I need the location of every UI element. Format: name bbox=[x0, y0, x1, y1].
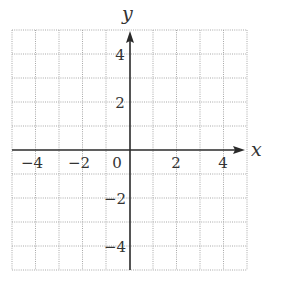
y-tick-label-neg4: −4 bbox=[104, 238, 126, 256]
x-tick-label-neg2: −2 bbox=[68, 154, 90, 172]
y-tick-label-neg2: −2 bbox=[104, 190, 126, 208]
x-axis-label: x bbox=[251, 138, 262, 160]
y-tick-label-2: 2 bbox=[115, 94, 125, 112]
x-tick-label-2: 2 bbox=[171, 154, 181, 172]
x-tick-label-neg4: −4 bbox=[21, 154, 43, 172]
x-tick-label-4: 4 bbox=[218, 154, 228, 172]
coordinate-plane: x y −4 −2 0 2 4 4 2 −2 −4 bbox=[0, 0, 283, 284]
y-tick-label-4: 4 bbox=[115, 46, 125, 64]
y-axis-label: y bbox=[121, 2, 133, 24]
origin-label: 0 bbox=[112, 154, 122, 172]
